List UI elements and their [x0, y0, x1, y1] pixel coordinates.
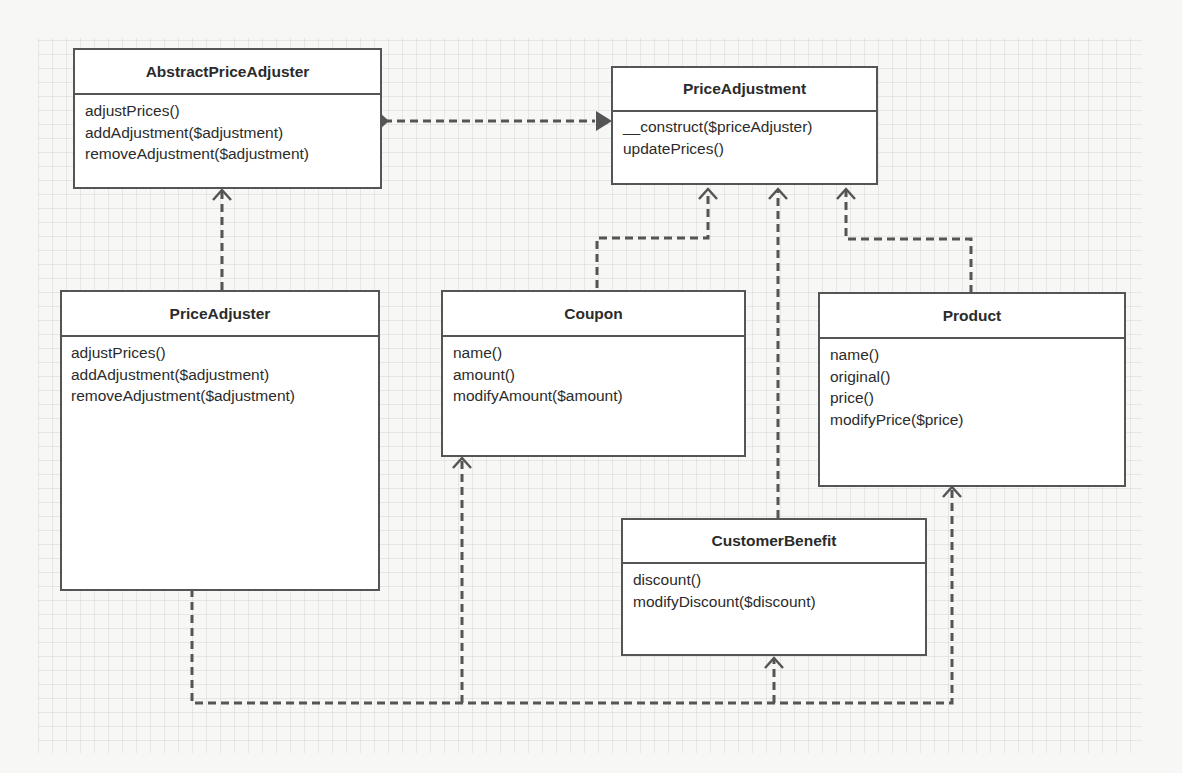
class-customer-benefit[interactable]: CustomerBenefit discount() modifyDiscoun… — [621, 518, 927, 656]
operation: modifyAmount($amount) — [453, 385, 734, 407]
operation: adjustPrices() — [71, 342, 368, 364]
class-name: Product — [820, 294, 1124, 339]
operation: adjustPrices() — [85, 100, 370, 122]
operation: price() — [830, 387, 1114, 409]
class-product[interactable]: Product name() original() price() modify… — [818, 292, 1126, 487]
operations-list: name() amount() modifyAmount($amount) — [443, 337, 744, 412]
operation: removeAdjustment($adjustment) — [85, 143, 370, 165]
operation: original() — [830, 366, 1114, 388]
open-arrow-icon — [769, 189, 787, 199]
operation: amount() — [453, 364, 734, 386]
operation: discount() — [633, 569, 915, 591]
operations-list: discount() modifyDiscount($discount) — [623, 564, 925, 617]
operations-list: name() original() price() modifyPrice($p… — [820, 339, 1124, 435]
filled-arrow-icon — [596, 111, 612, 131]
operation: name() — [830, 344, 1114, 366]
operations-list: adjustPrices() addAdjustment($adjustment… — [62, 337, 378, 412]
operation: name() — [453, 342, 734, 364]
class-name: AbstractPriceAdjuster — [75, 50, 380, 95]
operation: modifyPrice($price) — [830, 409, 1114, 431]
operation: removeAdjustment($adjustment) — [71, 385, 368, 407]
class-name: PriceAdjustment — [613, 68, 876, 112]
operation: addAdjustment($adjustment) — [85, 122, 370, 144]
operation: updatePrices() — [623, 138, 866, 160]
operations-list: __construct($priceAdjuster) updatePrices… — [613, 112, 876, 164]
class-abstract-price-adjuster[interactable]: AbstractPriceAdjuster adjustPrices() add… — [73, 48, 382, 189]
class-name: PriceAdjuster — [62, 292, 378, 337]
class-coupon[interactable]: Coupon name() amount() modifyAmount($amo… — [441, 290, 746, 457]
class-price-adjuster[interactable]: PriceAdjuster adjustPrices() addAdjustme… — [60, 290, 380, 591]
operation: __construct($priceAdjuster) — [623, 116, 866, 138]
operation: addAdjustment($adjustment) — [71, 364, 368, 386]
operation: modifyDiscount($discount) — [633, 591, 915, 613]
operations-list: adjustPrices() addAdjustment($adjustment… — [75, 95, 380, 170]
class-price-adjustment[interactable]: PriceAdjustment __construct($priceAdjust… — [611, 66, 878, 185]
class-name: CustomerBenefit — [623, 520, 925, 564]
class-name: Coupon — [443, 292, 744, 337]
